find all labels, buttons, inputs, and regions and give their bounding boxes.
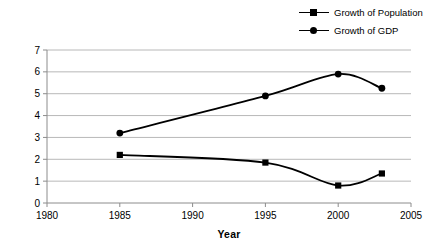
chart-container: Growth of Population Growth of GDP Growt…: [0, 0, 431, 252]
y-tick-label-3: 3: [34, 132, 40, 143]
x-tick-label-2000: 2000: [327, 210, 350, 221]
data-point-growth-of-gdp-2000: [335, 71, 342, 78]
plot-area: 01234567 198019851990199520002005: [0, 0, 431, 252]
data-point-growth-of-population-1995: [262, 159, 268, 165]
y-tick-label-0: 0: [34, 198, 40, 209]
gridlines: [47, 50, 411, 181]
y-tick-label-5: 5: [34, 88, 40, 99]
x-tick-labels: 198019851990199520002005: [36, 210, 423, 221]
y-tick-label-1: 1: [34, 176, 40, 187]
x-tick-label-1995: 1995: [254, 210, 277, 221]
y-tick-labels: 01234567: [34, 45, 40, 209]
y-tick-label-7: 7: [34, 45, 40, 56]
x-tick-label-1980: 1980: [36, 210, 59, 221]
data-point-growth-of-gdp-1995: [262, 93, 269, 100]
data-point-growth-of-gdp-2003: [378, 85, 385, 92]
y-tick-label-6: 6: [34, 66, 40, 77]
x-tick-marks: [47, 203, 411, 207]
series-lines: [120, 74, 382, 186]
data-point-growth-of-gdp-1985: [116, 130, 123, 137]
x-tick-label-1990: 1990: [181, 210, 204, 221]
y-tick-label-2: 2: [34, 154, 40, 165]
x-tick-label-1985: 1985: [109, 210, 132, 221]
series-markers: [116, 71, 385, 189]
data-point-growth-of-population-1985: [117, 152, 123, 158]
y-tick-label-4: 4: [34, 110, 40, 121]
x-tick-label-2005: 2005: [400, 210, 423, 221]
y-tick-marks: [43, 50, 47, 203]
data-point-growth-of-population-2000: [335, 182, 341, 188]
series-line-growth-of-gdp: [120, 74, 382, 133]
data-point-growth-of-population-2003: [379, 170, 385, 176]
